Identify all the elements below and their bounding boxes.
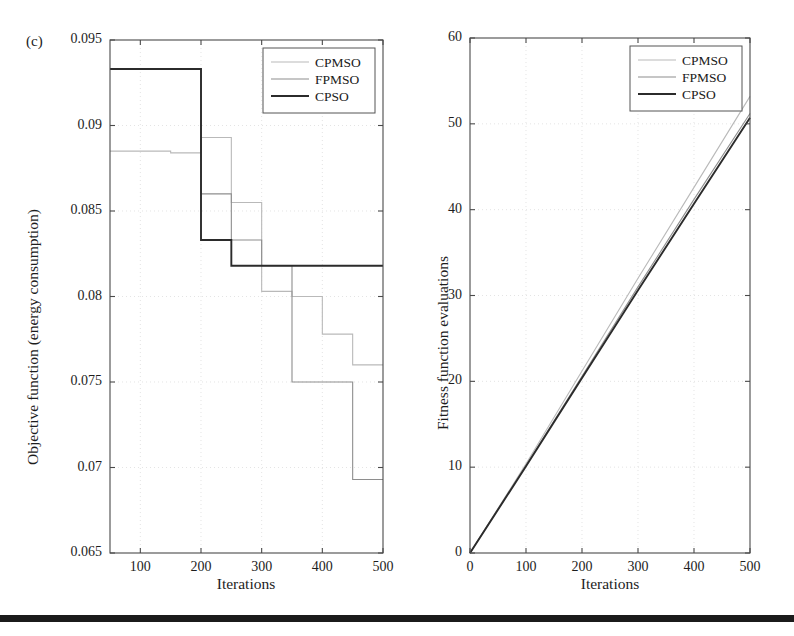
y-tick-label: 0: [392, 544, 462, 560]
x-tick-label: 400: [664, 559, 724, 575]
figure-container: (c) Objective function (energy consumpti…: [0, 0, 794, 636]
right-y-axis-title: Fitness function evaluations: [434, 256, 452, 430]
series-line-cpmso: [470, 96, 750, 553]
legend-label-cpso: CPSO: [682, 87, 716, 102]
y-tick-label: 0.065: [32, 544, 102, 560]
y-tick-label: 40: [392, 201, 462, 217]
x-tick-label: 500: [720, 559, 780, 575]
left-plot-svg: CPMSOFPMSOCPSO: [0, 0, 400, 636]
right-x-axis-title: Iterations: [510, 575, 710, 593]
legend-label-cpmso: CPMSO: [315, 55, 361, 70]
left-x-axis-title: Iterations: [146, 575, 346, 593]
y-tick-label: 60: [392, 29, 462, 45]
x-tick-label: 100: [110, 559, 170, 575]
y-tick-label: 0.085: [32, 202, 102, 218]
chart-panel-left: Objective function (energy consumption) …: [0, 0, 400, 636]
footer-rule: [0, 615, 794, 622]
y-tick-label: 0.07: [32, 459, 102, 475]
legend-label-fpmso: FPMSO: [315, 72, 360, 87]
y-tick-label: 50: [392, 115, 462, 131]
chart-panel-right: Fitness function evaluations Iterations …: [400, 0, 794, 636]
y-tick-label: 30: [392, 287, 462, 303]
series-line-cpmso: [110, 137, 383, 364]
x-tick-label: 300: [608, 559, 668, 575]
y-tick-label: 20: [392, 372, 462, 388]
y-tick-label: 0.09: [32, 117, 102, 133]
y-tick-label: 0.08: [32, 288, 102, 304]
x-tick-label: 400: [292, 559, 352, 575]
x-tick-label: 100: [496, 559, 556, 575]
left-y-axis-title: Objective function (energy consumption): [24, 209, 42, 465]
legend-label-fpmso: FPMSO: [682, 70, 727, 85]
right-plot-svg: CPMSOFPMSOCPSO: [400, 0, 794, 636]
series-line-cpso: [470, 118, 750, 553]
legend-label-cpso: CPSO: [315, 89, 349, 104]
series-line-fpmso: [110, 69, 383, 479]
legend-label-cpmso: CPMSO: [682, 53, 728, 68]
y-tick-label: 0.075: [32, 373, 102, 389]
x-tick-label: 200: [552, 559, 612, 575]
x-tick-label: 300: [232, 559, 292, 575]
y-tick-label: 10: [392, 458, 462, 474]
y-tick-label: 0.095: [32, 31, 102, 47]
x-tick-label: 0: [440, 559, 500, 575]
x-tick-label: 200: [171, 559, 231, 575]
